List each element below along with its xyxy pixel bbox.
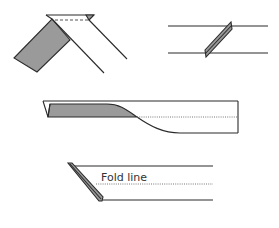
figure-2-slanted-fold (168, 22, 268, 57)
figure-1-right-strip-edge (89, 20, 127, 59)
figure-3-s-curve (137, 117, 238, 133)
fold-line-label: Fold line (101, 171, 147, 184)
figure-4-labeled-fold: Fold line (68, 163, 213, 201)
figure-2-fold-inner-line (206, 26, 232, 54)
figure-3-curved-fold (43, 101, 238, 133)
figure-1-diagonal-fold (14, 15, 127, 73)
fold-diagram: Fold line (0, 0, 279, 228)
figure-1-small-shaded-corner (86, 15, 94, 20)
figure-3-shaded-fold (48, 104, 137, 117)
figure-1-top-left-edge (46, 15, 52, 19)
figure-1-shaded-underside (14, 19, 70, 72)
figure-4-fold-inner-line (70, 164, 101, 199)
